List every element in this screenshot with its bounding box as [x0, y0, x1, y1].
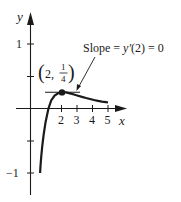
y-tick-label: 1	[16, 37, 22, 51]
point-label-num: 1	[61, 62, 66, 72]
y-axis-label: y	[15, 9, 23, 24]
point-label: ( 2, 1 4 )	[38, 61, 75, 84]
function-curve	[40, 92, 108, 173]
x-tick-label: 5	[105, 113, 111, 127]
slope-annotation: Slope = y′(2) = 0	[83, 41, 164, 55]
x-tick-label: 4	[89, 113, 95, 127]
svg-text:(: (	[38, 61, 45, 84]
point-label-x: 2,	[45, 67, 54, 81]
arrow-head-icon	[77, 84, 82, 91]
x-tick-label: 2	[58, 113, 64, 127]
svg-text:): )	[68, 61, 75, 84]
point-marker	[59, 89, 65, 95]
x-axis-arrow-icon	[115, 105, 127, 112]
point-label-den: 4	[61, 74, 66, 84]
y-tick-label: −1	[6, 166, 19, 180]
x-axis-label: x	[118, 113, 125, 128]
annotation-arrow	[78, 57, 95, 88]
x-tick-label: 3	[74, 113, 80, 127]
function-graph: y x 2 3 4 5 1 −1 ( 2, 1 4 ) Slope = y′(2…	[0, 0, 181, 202]
y-axis-arrow-icon	[27, 12, 34, 25]
